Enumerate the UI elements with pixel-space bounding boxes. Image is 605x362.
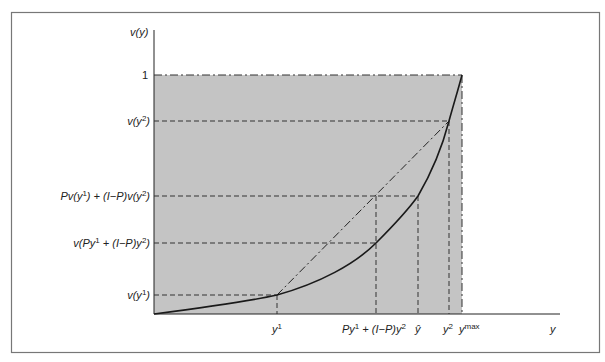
- y-tick-vy2: v(y2): [127, 115, 150, 127]
- shaded-region: [154, 75, 462, 314]
- x-tick-ymax: ymax: [459, 323, 480, 335]
- y-tick-v-expected: v(Py1 + (I−P)y2): [73, 237, 150, 249]
- x-axis-label: y: [550, 323, 556, 335]
- x-tick-mix: Py1 + (I−P)y2: [342, 323, 406, 335]
- x-tick-yhat: ŷ: [415, 323, 421, 335]
- y-tick-vy1: v(y1): [127, 289, 150, 301]
- y-axis-label: v(y): [130, 26, 148, 38]
- utility-chart: [0, 0, 605, 362]
- y-tick-expected-v: Pv(y1) + (I−P)v(y2): [60, 190, 150, 202]
- y-tick-one: 1: [142, 69, 148, 81]
- x-tick-y1: y1: [272, 323, 282, 335]
- x-tick-y2: y2: [443, 323, 453, 335]
